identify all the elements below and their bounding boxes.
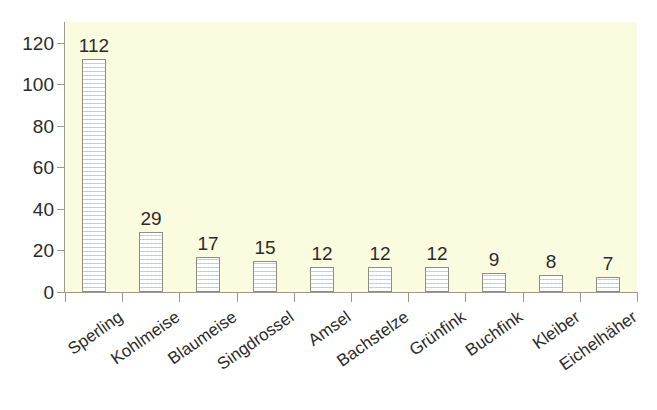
x-axis-tick <box>523 293 524 302</box>
x-axis-category-label: Buchfink <box>463 308 526 359</box>
x-axis-tick <box>294 293 295 302</box>
x-axis-tick <box>465 293 466 302</box>
y-axis-tick <box>57 250 65 251</box>
bar <box>82 59 106 292</box>
bar <box>253 261 277 292</box>
y-axis-tick <box>57 84 65 85</box>
x-axis-category-label: Grünfink <box>406 308 468 359</box>
bar <box>310 267 334 292</box>
bar <box>539 275 563 292</box>
bar-value-label: 9 <box>464 250 524 269</box>
y-axis-tick <box>57 292 65 293</box>
y-axis-line <box>64 22 65 293</box>
bar-value-label: 12 <box>350 244 410 263</box>
bar <box>139 232 163 292</box>
y-axis-tick-labels: 020406080100120 <box>0 0 54 410</box>
y-axis-tick <box>57 209 65 210</box>
bar-chart: 020406080100120 112291715121212987 Sperl… <box>0 0 657 410</box>
x-axis-tick <box>122 293 123 302</box>
x-axis-tick <box>637 293 638 302</box>
bar <box>196 257 220 292</box>
bar <box>425 267 449 292</box>
y-axis-tick <box>57 126 65 127</box>
x-axis-tick <box>179 293 180 302</box>
bar-value-label: 17 <box>178 234 238 253</box>
y-axis-tick-label: 60 <box>2 158 54 177</box>
y-axis-tick-label: 20 <box>2 241 54 260</box>
bar-value-label: 8 <box>521 252 581 271</box>
bar-value-label: 29 <box>121 209 181 228</box>
bar <box>368 267 392 292</box>
y-axis-tick <box>57 167 65 168</box>
bar-value-label: 12 <box>407 244 467 263</box>
y-axis-tick-label: 40 <box>2 199 54 218</box>
bar <box>482 273 506 292</box>
bar-value-label: 15 <box>235 238 295 257</box>
y-axis-tick-label: 100 <box>2 75 54 94</box>
y-axis-tick-label: 120 <box>2 33 54 52</box>
bar-value-label: 12 <box>292 244 352 263</box>
bar-value-label: 7 <box>578 254 638 273</box>
y-axis-tick-label: 0 <box>2 283 54 302</box>
y-axis-tick-label: 80 <box>2 116 54 135</box>
bar <box>596 277 620 292</box>
x-axis-category-label: Amsel <box>305 308 353 349</box>
x-axis-tick <box>65 293 66 302</box>
x-axis-tick <box>580 293 581 302</box>
x-axis-tick <box>408 293 409 302</box>
x-axis-tick <box>351 293 352 302</box>
bar-value-label: 112 <box>64 36 124 55</box>
x-axis-tick <box>237 293 238 302</box>
